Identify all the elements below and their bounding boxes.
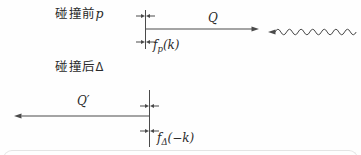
before-momentum-arrow [146, 27, 259, 32]
before-collision-caption: 碰撞前p [55, 8, 104, 21]
physics-diagram-canvas: 碰撞前p Q fp(k) 碰撞后Δ Q′ fΔ(−k) [0, 0, 361, 155]
before-caption-symbol: p [96, 6, 105, 21]
after-distribution-label: fΔ(−k) [157, 132, 194, 147]
after-caption-symbol: Δ [96, 60, 104, 74]
bottom-divider [3, 150, 358, 155]
after-transfer-label: Q′ [77, 95, 90, 107]
before-transfer-label: Q [208, 12, 218, 24]
photon-wavy-line-icon [268, 29, 356, 35]
after-collision-caption: 碰撞后Δ [55, 61, 104, 74]
before-caption-text: 碰撞前 [55, 6, 96, 21]
before-distribution-label: fp(k) [153, 39, 180, 54]
after-dist-args: (−k) [168, 131, 195, 145]
after-caption-text: 碰撞后 [55, 59, 96, 74]
before-dist-args: (k) [163, 38, 180, 52]
after-momentum-arrow [14, 114, 149, 119]
